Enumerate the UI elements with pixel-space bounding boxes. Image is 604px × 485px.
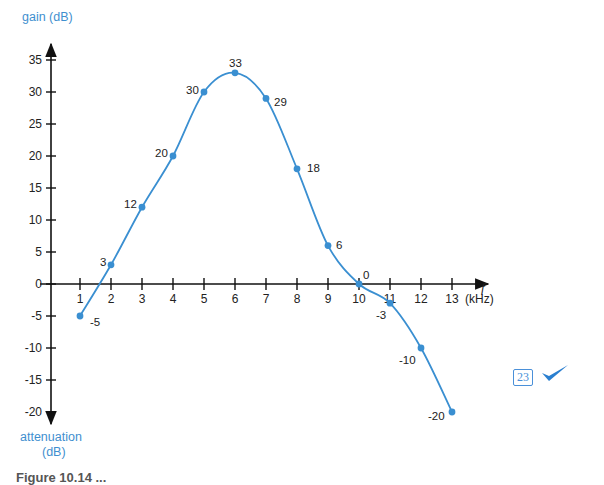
data-point [139, 204, 146, 211]
y-axis-bottom-title: attenuation [20, 430, 82, 444]
data-point-label: 30 [186, 84, 199, 96]
x-tick-label: 5 [201, 292, 208, 306]
data-point [201, 89, 208, 96]
y-tick-label: 25 [29, 117, 43, 131]
y-tick-label: -5 [31, 309, 42, 323]
data-point [449, 409, 456, 416]
data-point-label: -5 [90, 316, 100, 328]
data-point-label: 33 [229, 57, 242, 69]
data-point-label: 0 [363, 269, 369, 281]
data-point [232, 69, 239, 76]
y-tick-label: 0 [35, 277, 42, 291]
page-badge: 23 [513, 369, 533, 386]
y-tick-label: -15 [25, 373, 43, 387]
y-tick-label: 30 [29, 85, 43, 99]
y-tick-label: 15 [29, 181, 43, 195]
checkmark-icon [540, 362, 570, 384]
data-points: -5312203033291860-3-10-20 [77, 57, 456, 422]
data-point-label: -10 [399, 354, 416, 366]
data-point [356, 281, 363, 288]
y-tick-label: -10 [25, 341, 43, 355]
data-point-label: 3 [100, 256, 106, 268]
x-tick-label: 1 [77, 292, 84, 306]
data-point-label: -20 [428, 410, 445, 422]
data-point-label: 20 [155, 147, 168, 159]
x-tick-label: 8 [294, 292, 301, 306]
x-tick-label: 7 [263, 292, 270, 306]
y-tick-label: 10 [29, 213, 43, 227]
gain-curve [80, 73, 452, 412]
data-point [418, 345, 425, 352]
data-point [108, 261, 115, 268]
x-tick-label: 4 [170, 292, 177, 306]
data-point [294, 165, 301, 172]
data-point-label: 12 [124, 198, 137, 210]
data-point [170, 153, 177, 160]
x-tick-label: 12 [414, 292, 428, 306]
x-tick-label: 10 [352, 292, 366, 306]
data-point-label: -3 [376, 309, 386, 321]
data-point [325, 242, 332, 249]
y-tick-label: 35 [29, 53, 43, 67]
x-tick-label: 3 [139, 292, 146, 306]
data-point-label: 18 [307, 162, 320, 174]
x-tick-label: 9 [325, 292, 332, 306]
figure-caption: Figure 10.14 ... [16, 470, 106, 485]
x-tick-label: 13 [445, 292, 459, 306]
y-tick-label: -20 [25, 405, 43, 419]
y-tick-label: 5 [35, 245, 42, 259]
x-tick-label: 2 [108, 292, 115, 306]
y-tick-label: 20 [29, 149, 43, 163]
x-ticks: 12345678910111213 [77, 278, 459, 306]
x-tick-label: 6 [232, 292, 239, 306]
y-axis-title: gain (dB) [22, 10, 73, 24]
y-axis-bottom-unit: (dB) [42, 445, 66, 459]
data-point [77, 313, 84, 320]
data-point-label: 29 [274, 96, 287, 108]
x-axis-unit: (kHz) [465, 292, 494, 306]
data-point-label: 6 [336, 239, 342, 251]
data-point [263, 95, 270, 102]
data-point [387, 300, 394, 307]
